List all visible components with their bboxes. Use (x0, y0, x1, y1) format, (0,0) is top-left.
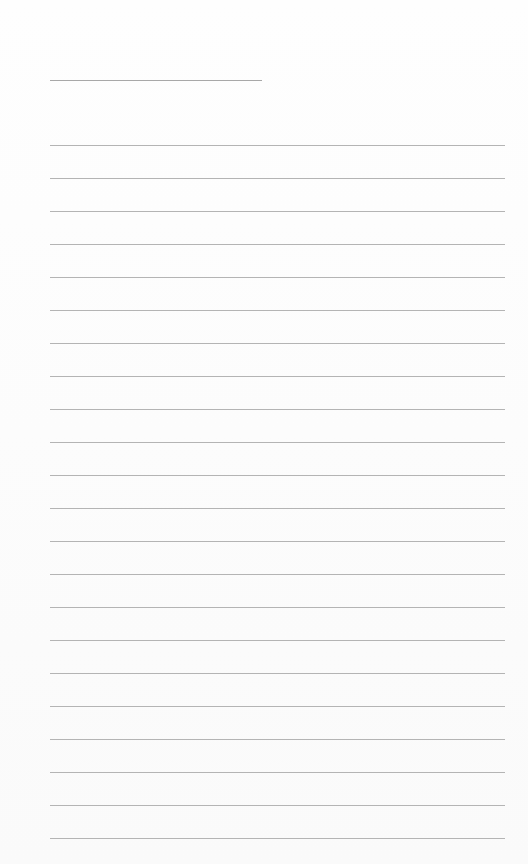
ruled-line (50, 673, 505, 674)
ruled-line (50, 211, 505, 212)
ruled-line (50, 343, 505, 344)
title-line (50, 80, 262, 81)
ruled-line (50, 706, 505, 707)
ruled-line (50, 838, 505, 839)
ruled-line (50, 607, 505, 608)
ruled-line (50, 574, 505, 575)
ruled-line (50, 805, 505, 806)
ruled-line (50, 739, 505, 740)
ruled-line (50, 277, 505, 278)
ruled-line (50, 541, 505, 542)
ruled-line (50, 640, 505, 641)
ruled-line (50, 310, 505, 311)
ruled-line (50, 442, 505, 443)
ruled-line (50, 409, 505, 410)
ruled-line (50, 244, 505, 245)
ruled-line (50, 376, 505, 377)
ruled-line (50, 772, 505, 773)
ruled-line (50, 178, 505, 179)
ruled-line (50, 508, 505, 509)
ruled-line (50, 475, 505, 476)
lined-paper-page (0, 0, 528, 864)
ruled-line (50, 145, 505, 146)
